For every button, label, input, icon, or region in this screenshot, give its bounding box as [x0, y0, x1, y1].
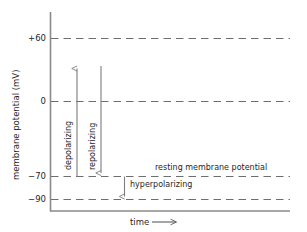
x-axis-title: time — [130, 218, 149, 227]
y-tick-minus-seventy: −70 — [20, 172, 46, 181]
hyperpolarizing-label: hyperpolarizing — [130, 181, 192, 189]
diagram-canvas — [0, 0, 307, 232]
y-axis-title: membrane potential (mV) — [12, 70, 21, 180]
repolarizing-label: repolarizing — [89, 123, 97, 170]
depolarizing-label: depolarizing — [65, 121, 73, 170]
y-tick-plus-sixty: +60 — [20, 34, 46, 43]
membrane-potential-diagram: membrane potential (mV) +60 0 −70 −90 de… — [0, 0, 307, 232]
resting-membrane-potential-label: resting membrane potential — [155, 164, 267, 172]
y-tick-zero: 0 — [20, 97, 46, 106]
y-tick-minus-ninety: −90 — [20, 195, 46, 204]
reference-lines — [51, 39, 290, 200]
